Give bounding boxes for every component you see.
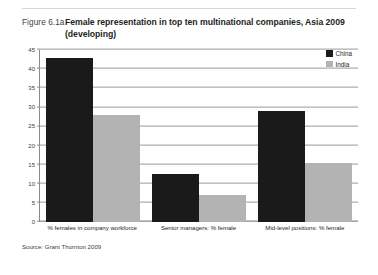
top-divider — [22, 8, 356, 9]
bar-china — [152, 174, 199, 222]
x-axis-category-label: Senior managers: % female — [161, 224, 236, 231]
y-axis-tick-label: 45 — [28, 47, 35, 53]
bar-china — [258, 111, 305, 222]
y-axis-tick-label: 0 — [32, 219, 35, 225]
bar-group — [40, 50, 146, 222]
figure-title: Female representation in top ten multina… — [65, 17, 358, 40]
legend-item-china: China — [326, 50, 378, 57]
x-axis-category-label: Mid-level positions: % female — [265, 224, 344, 231]
y-axis-tick-label: 15 — [28, 162, 35, 168]
figure-number: Figure 6.1a — [22, 17, 65, 27]
bars-layer — [40, 50, 358, 222]
y-axis-tick-label: 40 — [28, 66, 35, 72]
x-axis-category-label: % females in company workforce — [47, 224, 136, 231]
y-axis-tick-label: 25 — [28, 123, 35, 129]
legend-swatch-icon — [326, 50, 333, 57]
legend-swatch-icon — [326, 61, 333, 68]
plot-canvas — [39, 50, 358, 222]
y-axis-tick-label: 35 — [28, 85, 35, 91]
bar-group — [146, 50, 252, 222]
chart-legend: ChinaIndia — [326, 50, 378, 71]
bar-group — [252, 50, 358, 222]
bar-india — [93, 115, 140, 222]
bar-china — [46, 58, 93, 222]
figure-container: Figure 6.1a Female representation in top… — [0, 0, 378, 275]
y-axis-tick-label: 5 — [32, 200, 35, 206]
y-axis-tick-label: 20 — [28, 143, 35, 149]
y-axis: 051015202530354045 — [22, 50, 37, 222]
source-note: Source: Grant Thornton 2009 — [22, 243, 101, 250]
figure-title-row: Figure 6.1a Female representation in top… — [22, 17, 358, 40]
legend-item-india: India — [326, 61, 378, 68]
bar-india — [199, 195, 246, 222]
legend-label: China — [336, 50, 352, 57]
y-axis-tick-label: 30 — [28, 104, 35, 110]
bar-india — [305, 163, 352, 222]
chart-plot-area: 051015202530354045 — [22, 50, 358, 222]
y-axis-tick-label: 10 — [28, 181, 35, 187]
x-axis-labels: % females in company workforceSenior man… — [39, 224, 358, 236]
legend-label: India — [336, 61, 350, 68]
